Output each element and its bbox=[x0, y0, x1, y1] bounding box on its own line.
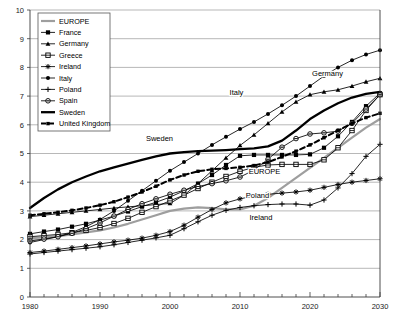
y-tick-label: 1 bbox=[20, 264, 24, 273]
legend-label: Poland bbox=[59, 85, 81, 94]
y-tick-label: 2 bbox=[20, 235, 24, 244]
series-annotations: SwedenSwedenItalyItalyGermanyGermanyEURO… bbox=[146, 69, 343, 222]
series-annotation: EUROPE bbox=[249, 167, 281, 176]
legend-label: United Kingdom bbox=[59, 119, 110, 128]
legend-label: Ireland bbox=[59, 62, 81, 71]
y-tick-label: 0 bbox=[20, 293, 24, 302]
y-tick-label: 6 bbox=[20, 121, 24, 130]
series-annotation: Poland bbox=[246, 191, 269, 200]
legend-label: Italy bbox=[59, 74, 73, 83]
x-tick-label: 2030 bbox=[372, 302, 389, 311]
legend-label: EUROPE bbox=[59, 17, 90, 26]
x-tick-label: 2010 bbox=[232, 302, 249, 311]
x-tick-label: 2000 bbox=[162, 302, 179, 311]
series-annotation: Ireland bbox=[250, 213, 273, 222]
series-ireland bbox=[27, 176, 382, 255]
legend-label: Greece bbox=[59, 51, 83, 60]
x-tick-label: 1990 bbox=[92, 302, 109, 311]
series-annotation: Germany bbox=[312, 69, 343, 78]
y-tick-label: 7 bbox=[20, 92, 24, 101]
y-tick-label: 5 bbox=[20, 149, 24, 158]
series-annotation: Italy bbox=[230, 88, 244, 97]
x-tick-label: 2020 bbox=[302, 302, 319, 311]
x-tick-label: 1980 bbox=[22, 302, 39, 311]
y-tick-label: 8 bbox=[20, 63, 24, 72]
legend-label: France bbox=[59, 28, 81, 37]
y-tick-label: 9 bbox=[20, 35, 24, 44]
legend-label: Sweden bbox=[59, 108, 85, 117]
y-tick-label: 3 bbox=[20, 207, 24, 216]
legend-label: Germany bbox=[59, 39, 89, 48]
line-chart: 012345678910198019902000201020202030 Swe… bbox=[0, 0, 394, 328]
series-annotation: Sweden bbox=[146, 134, 173, 143]
legend-label: Spain bbox=[59, 96, 77, 105]
chart-container: 012345678910198019902000201020202030 Swe… bbox=[0, 0, 394, 328]
legend[interactable]: EUROPEFranceGermanyGreeceIrelandItalyPol… bbox=[38, 13, 110, 131]
y-tick-label: 10 bbox=[16, 6, 24, 15]
y-tick-label: 4 bbox=[20, 178, 24, 187]
